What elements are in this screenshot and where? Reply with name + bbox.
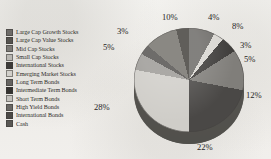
legend-item-label: International Stocks [16,61,64,69]
pie-slice-percent-label: 5% [244,54,255,64]
legend-item[interactable]: International Bonds [6,111,110,119]
pie-slice-percent-label: 8% [232,21,243,31]
chart-legend: Large Cap Growth StocksLarge Cap Value S… [6,28,110,128]
legend-swatch-icon [6,37,13,44]
pie-slice-percent-label: 22% [197,142,212,152]
legend-item[interactable]: Small Cap Stocks [6,53,110,61]
legend-swatch-icon [6,87,13,94]
pie-slice-percent-label: 28% [94,102,109,112]
legend-item-label: Mid Cap Stocks [16,45,55,53]
legend-swatch-icon [6,120,13,127]
legend-item[interactable]: Mid Cap Stocks [6,45,110,53]
legend-item-label: Cash [16,120,28,128]
legend-item-label: Long Term Bonds [16,78,59,86]
pie-slice-percent-label: 10% [162,12,177,22]
legend-swatch-icon [6,62,13,69]
pie-slice-percent-label: 4% [208,12,219,22]
pie-top-face [134,28,244,132]
legend-swatch-icon [6,29,13,36]
pie-slice-percent-label: 3% [240,40,251,50]
legend-item-label: Emerging Market Stocks [16,70,76,78]
legend-item-label: Large Cap Growth Stocks [16,28,78,36]
legend-item[interactable]: Large Cap Growth Stocks [6,28,110,36]
legend-swatch-icon [6,112,13,119]
legend-item[interactable]: Long Term Bonds [6,78,110,86]
legend-item[interactable]: Cash [6,120,110,128]
pie-slice-percent-label: 12% [246,90,261,100]
legend-swatch-icon [6,54,13,61]
legend-swatch-icon [6,45,13,52]
legend-item-label: High Yield Bonds [16,103,59,111]
legend-item[interactable]: International Stocks [6,61,110,69]
pie-chart: 10%4%8%3%5%12%22%28%5%3% [122,12,264,152]
legend-item-label: Large Cap Value Stocks [16,36,73,44]
pie-slice-percent-label: 5% [103,42,114,52]
legend-swatch-icon [6,79,13,86]
legend-item[interactable]: Emerging Market Stocks [6,70,110,78]
pie-graphic [134,28,244,138]
legend-item-label: Intermediate Term Bonds [16,86,77,94]
chart-page: Large Cap Growth StocksLarge Cap Value S… [0,0,271,159]
legend-swatch-icon [6,104,13,111]
legend-item-label: Small Cap Stocks [16,53,59,61]
legend-swatch-icon [6,70,13,77]
legend-item[interactable]: Intermediate Term Bonds [6,86,110,94]
legend-item-label: International Bonds [16,111,63,119]
pie-slice-percent-label: 3% [117,26,128,36]
legend-item-label: Short Term Bonds [16,95,60,103]
legend-swatch-icon [6,95,13,102]
legend-item[interactable]: Large Cap Value Stocks [6,36,110,44]
